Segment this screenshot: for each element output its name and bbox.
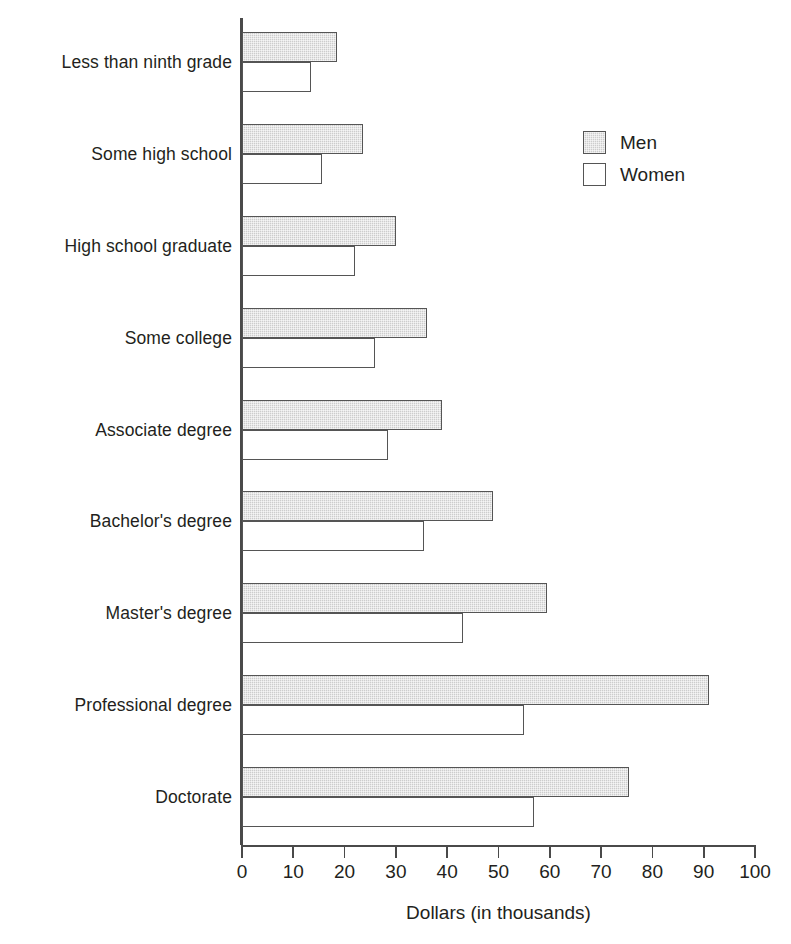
chart-legend: Men Women	[583, 126, 685, 190]
bar-women	[242, 430, 388, 460]
bar-women	[242, 338, 375, 368]
category-label: Some high school	[4, 146, 232, 164]
x-axis-tick-label: 10	[283, 862, 304, 881]
x-axis-tick	[600, 845, 602, 858]
bar-men	[242, 308, 427, 338]
bar-men	[242, 767, 629, 797]
category-axis-labels: Less than ninth gradeSome high schoolHig…	[0, 18, 232, 845]
category-label: Bachelor's degree	[4, 513, 232, 531]
legend-swatch-men-icon	[583, 131, 606, 154]
legend-item-men: Men	[583, 126, 685, 158]
bar-women	[242, 62, 311, 92]
bar-men	[242, 32, 337, 62]
bar-women	[242, 246, 355, 276]
bar-group	[242, 400, 755, 460]
x-axis-tick	[652, 845, 654, 858]
category-label: Some college	[4, 330, 232, 348]
x-axis-tick-label: 40	[437, 862, 458, 881]
category-label: Associate degree	[4, 422, 232, 440]
bar-group	[242, 767, 755, 827]
x-axis-tick-label: 20	[334, 862, 355, 881]
bar-women	[242, 797, 534, 827]
category-label: Professional degree	[4, 697, 232, 715]
bar-men	[242, 124, 363, 154]
bar-group	[242, 308, 755, 368]
x-axis-tick	[703, 845, 705, 858]
bar-men	[242, 583, 547, 613]
x-axis-tick-label: 30	[385, 862, 406, 881]
legend-swatch-women-icon	[583, 163, 606, 186]
x-axis-tick	[241, 845, 243, 858]
legend-label-women: Women	[620, 165, 685, 184]
bar-women	[242, 705, 524, 735]
x-axis-tick-label: 0	[237, 862, 248, 881]
category-label: Doctorate	[4, 789, 232, 807]
x-axis-tick	[498, 845, 500, 858]
x-axis-tick-label: 80	[642, 862, 663, 881]
x-axis-tick	[395, 845, 397, 858]
x-axis-tick-label: 90	[693, 862, 714, 881]
bar-men	[242, 400, 442, 430]
bar-women	[242, 521, 424, 551]
bar-group	[242, 216, 755, 276]
x-axis-tick	[344, 845, 346, 858]
x-axis-tick	[549, 845, 551, 858]
bar-men	[242, 216, 396, 246]
bar-men	[242, 491, 493, 521]
x-axis-tick	[754, 845, 756, 858]
x-axis-title: Dollars (in thousands)	[242, 903, 755, 922]
bar-men	[242, 675, 709, 705]
x-axis-tick-label: 70	[591, 862, 612, 881]
x-axis-tick	[292, 845, 294, 858]
x-axis-tick-label: 50	[488, 862, 509, 881]
category-label: Master's degree	[4, 605, 232, 623]
category-label: High school graduate	[4, 238, 232, 256]
category-label: Less than ninth grade	[4, 54, 232, 72]
bar-chart: Less than ninth gradeSome high schoolHig…	[0, 0, 791, 944]
x-axis-tick-label: 100	[739, 862, 771, 881]
bar-group	[242, 675, 755, 735]
bar-group	[242, 583, 755, 643]
x-axis-tick-label: 60	[539, 862, 560, 881]
bar-women	[242, 613, 463, 643]
bar-group	[242, 491, 755, 551]
legend-label-men: Men	[620, 133, 657, 152]
legend-item-women: Women	[583, 158, 685, 190]
x-axis-tick	[446, 845, 448, 858]
bar-women	[242, 154, 322, 184]
bar-group	[242, 32, 755, 92]
